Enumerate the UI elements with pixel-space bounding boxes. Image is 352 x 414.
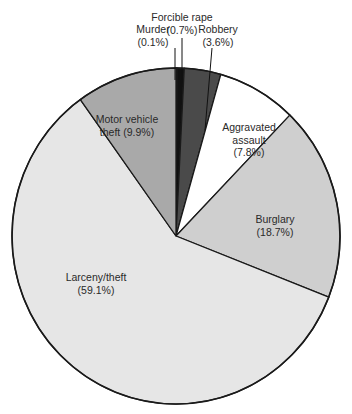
label-text: Robbery — [198, 23, 238, 36]
label-aggravated-assault: Aggravated assault (7.8%) — [222, 121, 276, 159]
label-text: Forcible rape — [151, 11, 212, 24]
label-text: Burglary — [255, 213, 294, 226]
label-text: Motor vehicle — [96, 113, 158, 126]
label-text: (7.8%) — [222, 146, 276, 159]
label-text: (18.7%) — [255, 226, 294, 239]
label-text: (59.1%) — [66, 284, 127, 297]
label-robbery: Robbery (3.6%) — [198, 23, 238, 48]
label-text: Murder — [136, 23, 169, 36]
label-larceny-theft: Larceny/theft (59.1%) — [66, 271, 127, 296]
label-text: assault — [222, 134, 276, 147]
label-text: theft (9.9%) — [96, 126, 158, 139]
label-text: Larceny/theft — [66, 271, 127, 284]
label-text: (0.1%) — [136, 36, 169, 49]
label-text: (3.6%) — [198, 36, 238, 49]
label-murder: Murder (0.1%) — [136, 23, 169, 48]
label-motor-vehicle-theft: Motor vehicle theft (9.9%) — [96, 113, 158, 138]
label-text: Aggravated — [222, 121, 276, 134]
pie-chart — [0, 0, 352, 414]
label-burglary: Burglary (18.7%) — [255, 213, 294, 238]
